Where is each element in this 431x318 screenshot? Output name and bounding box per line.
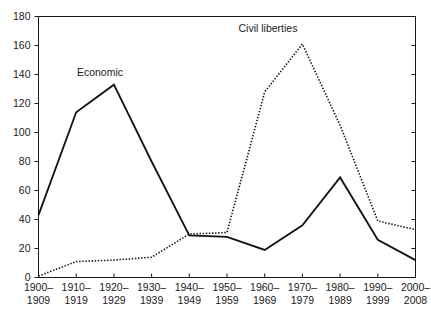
series-layer <box>39 44 416 276</box>
x-tick-label: 1900–1909 <box>24 281 53 306</box>
x-tick-label: 1970–1979 <box>288 281 317 306</box>
y-tick-label: 80 <box>19 155 31 167</box>
x-tick-label: 1980–1989 <box>325 281 354 306</box>
x-axis-tick-labels: 1900–19091910–19191920–19291930–19391940… <box>24 281 430 306</box>
axis-frame <box>39 17 416 278</box>
y-tick-label: 160 <box>13 39 31 51</box>
x-tick-label: 1990–1999 <box>363 281 392 306</box>
x-tick-label: 1920–1929 <box>99 281 128 306</box>
y-tick-label: 60 <box>19 184 31 196</box>
x-tick-label: 1910–1919 <box>62 281 91 306</box>
y-tick-label: 140 <box>13 68 31 80</box>
y-tick-label: 20 <box>19 242 31 254</box>
x-tick-label: 2000–2008 <box>401 281 430 306</box>
x-tick-label: 1930–1939 <box>137 281 166 306</box>
plot-frame <box>39 17 416 278</box>
series-line-civil-liberties <box>39 44 416 276</box>
x-axis-ticks <box>39 274 416 278</box>
y-tick-label: 40 <box>19 213 31 225</box>
x-tick-label: 1940–1949 <box>175 281 204 306</box>
chart-container: 020406080100120140160180 1900–19091910–1… <box>0 0 431 318</box>
series-line-economic <box>39 85 416 260</box>
y-tick-label: 120 <box>13 97 31 109</box>
line-chart: 020406080100120140160180 1900–19091910–1… <box>0 0 431 318</box>
series-label-economic: Economic <box>77 66 123 78</box>
y-axis-ticks <box>35 17 416 278</box>
x-tick-label: 1950–1959 <box>212 281 241 306</box>
x-tick-label: 1960–1969 <box>250 281 279 306</box>
series-annotations: EconomicCivil liberties <box>77 22 298 78</box>
y-tick-label: 180 <box>13 10 31 22</box>
y-tick-label: 100 <box>13 126 31 138</box>
y-axis-tick-labels: 020406080100120140160180 <box>13 10 31 283</box>
series-label-civil-liberties: Civil liberties <box>239 22 298 34</box>
